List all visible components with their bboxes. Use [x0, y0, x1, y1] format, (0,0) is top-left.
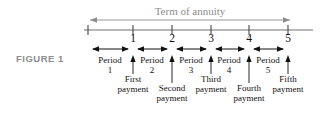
- payment-word-second: payment: [157, 94, 188, 103]
- payment-word-fourth: payment: [234, 94, 265, 103]
- period-word-5: Period: [256, 56, 280, 65]
- payment-ordinal-fourth: Fourth: [237, 84, 261, 93]
- period-word-4: Period: [217, 56, 241, 65]
- period-number-2: 2: [150, 66, 155, 75]
- period-word-2: Period: [140, 56, 164, 65]
- term-of-annuity-arrow: [90, 17, 290, 23]
- tick-label-5: 5: [285, 33, 291, 45]
- tick-label-3: 3: [208, 33, 214, 45]
- payment-word-third: payment: [196, 85, 227, 94]
- payment-ordinal-fifth: Fifth: [279, 75, 297, 84]
- payment-word-fifth: payment: [273, 85, 304, 94]
- term-of-annuity-label: Term of annuity: [155, 6, 226, 17]
- payment-ordinal-third: Third: [201, 75, 221, 84]
- period-number-5: 5: [266, 66, 271, 75]
- period-span-arrows: [92, 46, 284, 52]
- payment-word-first: payment: [118, 85, 149, 94]
- tick-label-1: 1: [130, 33, 136, 45]
- tick-label-4: 4: [246, 33, 252, 45]
- period-word-1: Period: [98, 56, 122, 65]
- figure-caption: FIGURE 1: [16, 54, 64, 64]
- period-word-3: Period: [179, 56, 203, 65]
- annuity-timeline-figure: FIGURE 1 Term of annuity 1 2 3 4 5 Perio…: [0, 0, 321, 115]
- payment-ordinal-second: Second: [159, 84, 186, 93]
- period-number-1: 1: [108, 66, 113, 75]
- payment-ordinal-first: First: [125, 75, 142, 84]
- period-number-3: 3: [189, 66, 194, 75]
- period-number-4: 4: [227, 66, 232, 75]
- tick-label-2: 2: [169, 33, 175, 45]
